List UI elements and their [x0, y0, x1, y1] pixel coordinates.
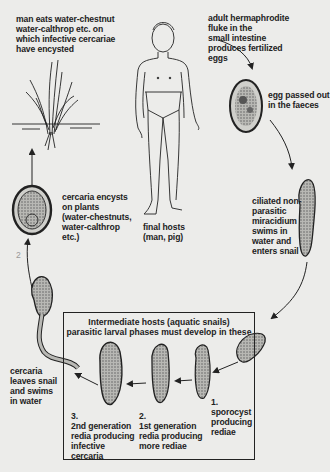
stray-mark: 2 — [16, 250, 21, 260]
label-adult-fluke: adult hermaphrodite fluke in the small i… — [208, 13, 289, 63]
egg-icon — [230, 80, 262, 132]
stage-1-label: 1. sporocyst producing rediae — [211, 397, 252, 437]
label-miracidium: ciliated non- parasitic miracidium swims… — [252, 196, 301, 256]
arrow-egg-to-miracidium — [270, 120, 292, 168]
human-figure-icon — [136, 23, 199, 215]
water-plant-icon — [12, 60, 100, 150]
label-final-hosts: final hosts (man, pig) — [143, 222, 185, 242]
stage-2-label: 2. 1st generation redia producing more r… — [139, 411, 202, 451]
encysted-cercaria-icon — [13, 186, 51, 234]
label-egg-passed: egg passed out in the faeces — [268, 90, 330, 110]
label-cercaria-leaves: cercaria leaves snail and swims in water — [10, 366, 57, 406]
arrow-cercaria-to-cyst — [27, 240, 32, 288]
label-cercaria-encysts: cercaria encysts on plants (water-chestn… — [62, 192, 131, 242]
intermediate-hosts-title: Intermediate hosts (aquatic snails) para… — [63, 317, 255, 337]
label-man-eats: man eats water-chestnut water-calthrop e… — [16, 14, 115, 54]
miracidium-icon — [299, 180, 315, 256]
arrow-miracidium-to-snail — [272, 262, 307, 318]
stage-3-label: 3. 2nd generation redia producing infect… — [71, 411, 134, 461]
